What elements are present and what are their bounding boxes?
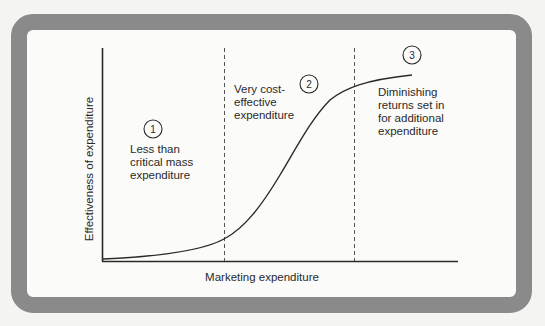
region-3-line-3: for additional (378, 112, 444, 124)
region-2-number: 2 (306, 79, 312, 90)
region-1-line-3: expenditure (130, 169, 190, 181)
region-2-line-1: Very cost- (234, 83, 285, 95)
region-3-line-4: expenditure (378, 125, 438, 137)
region-3-annotation: 3 Diminishing returns set in for additio… (378, 46, 444, 137)
region-1-line-1: Less than (130, 143, 180, 155)
s-curve-diagram: Effectiveness of expenditure Marketing e… (0, 0, 545, 326)
y-axis-label: Effectiveness of expenditure (83, 97, 95, 241)
region-2-line-2: effective (234, 96, 277, 108)
region-3-number: 3 (409, 50, 415, 61)
region-1-annotation: 1 Less than critical mass expenditure (130, 120, 194, 181)
region-1-number: 1 (150, 124, 156, 135)
region-2-annotation: 2 Very cost- effective expenditure (234, 75, 318, 121)
region-3-line-1: Diminishing (378, 86, 437, 98)
region-3-line-2: returns set in (378, 99, 444, 111)
x-axis-label: Marketing expenditure (205, 271, 319, 283)
region-2-line-3: expenditure (234, 109, 294, 121)
region-1-line-2: critical mass (130, 156, 194, 168)
